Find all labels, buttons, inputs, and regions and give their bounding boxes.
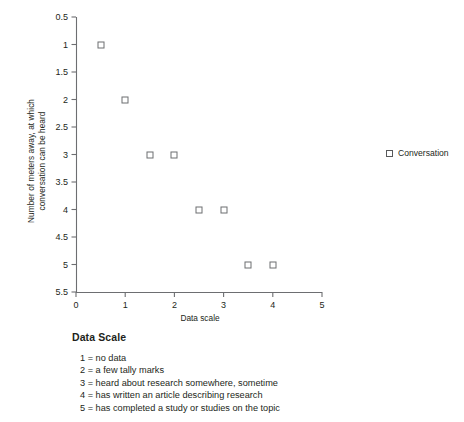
y-tick-label: 2 (34, 95, 68, 105)
x-tick-label: 4 (270, 300, 275, 310)
data-point-marker (97, 41, 104, 48)
y-tick-label: 3 (34, 150, 68, 160)
y-tick-label: 2.5 (34, 122, 68, 132)
data-point-marker (171, 151, 178, 158)
y-tick-label: 4 (34, 205, 68, 215)
data-point-marker (220, 206, 227, 213)
x-tick-label: 2 (172, 300, 177, 310)
caption-item: 4 = has written an article describing re… (80, 389, 392, 401)
caption-item: 5 = has completed a study or studies on … (80, 402, 392, 414)
y-tick-label: 1 (34, 40, 68, 50)
y-tick-label: 1.5 (34, 67, 68, 77)
x-tick-label: 5 (319, 300, 324, 310)
caption-item: 3 = heard about research somewhere, some… (80, 377, 392, 389)
x-tick-label: 3 (221, 300, 226, 310)
legend-swatch-icon (386, 150, 393, 157)
data-point-marker (196, 206, 203, 213)
caption-title: Data Scale (72, 331, 392, 343)
legend-label: Conversation (398, 148, 449, 158)
data-point-marker (146, 151, 153, 158)
scatter-chart-figure: Number of meters away, at which conversa… (0, 0, 464, 422)
y-tick-label: 3.5 (34, 177, 68, 187)
data-scale-caption: Data Scale 1 = no data2 = a few tally ma… (72, 331, 392, 414)
x-tick-label: 1 (123, 300, 128, 310)
y-tick-label: 4.5 (34, 232, 68, 242)
y-tick-label: 5.5 (34, 287, 68, 297)
y-tick-label: 0.5 (34, 12, 68, 22)
x-axis-title: Data scale (76, 313, 324, 323)
chart-legend: Conversation (386, 148, 449, 158)
caption-item: 2 = a few tally marks (80, 364, 392, 376)
caption-item: 1 = no data (80, 352, 392, 364)
data-point-marker (245, 261, 252, 268)
x-tick-label: 0 (73, 300, 78, 310)
data-point-marker (122, 96, 129, 103)
y-tick-label: 5 (34, 260, 68, 270)
data-point-marker (269, 261, 276, 268)
caption-list: 1 = no data2 = a few tally marks3 = hear… (72, 352, 392, 414)
